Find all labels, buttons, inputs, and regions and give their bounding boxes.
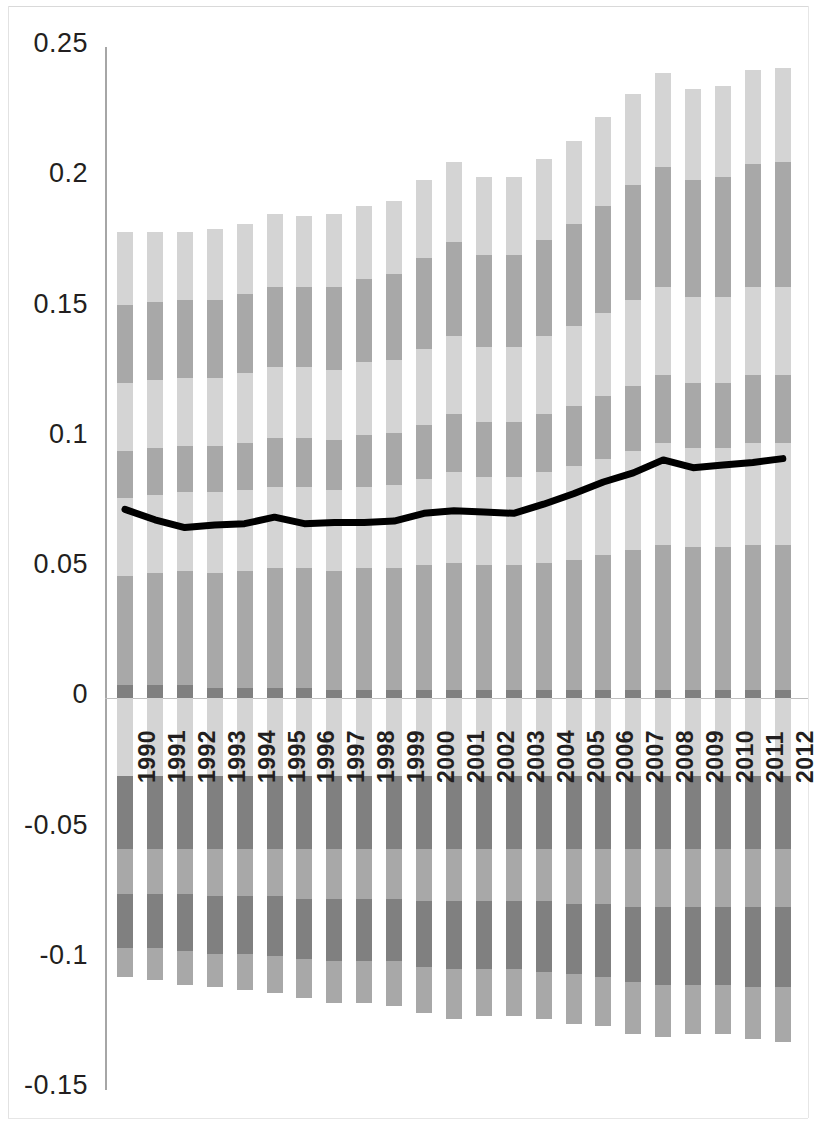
bar-segment-pos-seg-3 [237, 490, 253, 571]
bar-segment-neg-seg-5 [177, 951, 193, 985]
bar-segment-neg-seg-4 [745, 907, 761, 988]
x-axis-label-2009: 2009 [702, 730, 729, 783]
bar-2008[interactable] [655, 40, 671, 1096]
bar-segment-neg-seg-5 [207, 954, 223, 988]
bar-2007[interactable] [625, 40, 641, 1096]
x-axis-label-2003: 2003 [523, 730, 550, 783]
bar-1990[interactable] [117, 40, 133, 1096]
bar-segment-neg-seg-3 [416, 849, 432, 901]
bar-segment-neg-seg-3 [745, 849, 761, 906]
bar-segment-pos-seg-6 [685, 180, 701, 297]
bar-segment-pos-seg-5 [237, 373, 253, 443]
bar-segment-neg-seg-3 [536, 849, 552, 901]
bar-2005[interactable] [566, 40, 582, 1096]
bar-segment-neg-seg-3 [117, 849, 133, 893]
bar-1993[interactable] [207, 40, 223, 1096]
bar-segment-pos-seg-1 [506, 690, 522, 698]
bar-segment-pos-seg-6 [296, 287, 312, 368]
bar-segment-neg-seg-2 [655, 776, 671, 849]
bar-segment-pos-seg-7 [117, 232, 133, 305]
bar-segment-pos-seg-6 [416, 258, 432, 349]
bar-segment-neg-seg-4 [775, 907, 791, 988]
bar-segment-pos-seg-5 [326, 370, 342, 440]
bar-2010[interactable] [715, 40, 731, 1096]
bar-segment-pos-seg-6 [207, 300, 223, 378]
bar-segment-neg-seg-3 [296, 849, 312, 898]
bar-2004[interactable] [536, 40, 552, 1096]
bar-segment-pos-seg-5 [356, 362, 372, 435]
bar-segment-pos-seg-2 [446, 563, 462, 691]
bar-segment-pos-seg-3 [595, 459, 611, 555]
bar-segment-neg-seg-5 [745, 987, 761, 1039]
bar-segment-neg-seg-2 [386, 776, 402, 849]
bar-segment-pos-seg-4 [775, 375, 791, 443]
bar-segment-pos-seg-4 [655, 375, 671, 443]
bar-segment-neg-seg-3 [446, 849, 462, 901]
bar-segment-neg-seg-3 [326, 849, 342, 898]
bar-segment-pos-seg-2 [117, 576, 133, 685]
bar-segment-neg-seg-3 [775, 849, 791, 906]
bar-segment-pos-seg-3 [566, 466, 582, 560]
bar-segment-neg-seg-3 [356, 849, 372, 898]
bar-2006[interactable] [595, 40, 611, 1096]
bar-segment-pos-seg-1 [476, 690, 492, 698]
x-axis-label-2000: 2000 [433, 730, 460, 783]
x-axis-label-2011: 2011 [762, 731, 789, 783]
bar-segment-neg-seg-4 [506, 901, 522, 969]
bar-2000[interactable] [416, 40, 432, 1096]
bar-segment-pos-seg-2 [296, 568, 312, 688]
bar-segment-pos-seg-3 [625, 451, 641, 550]
bar-segment-pos-seg-2 [267, 568, 283, 688]
bar-segment-pos-seg-4 [745, 375, 761, 443]
x-axis-label-1995: 1995 [284, 730, 311, 783]
bar-segment-pos-seg-3 [775, 443, 791, 545]
bar-segment-neg-seg-2 [506, 776, 522, 849]
bar-segment-pos-seg-1 [267, 688, 283, 698]
bar-segment-pos-seg-7 [237, 224, 253, 294]
bar-1992[interactable] [177, 40, 193, 1096]
y-axis-tick-neg0p1: -0.1 [0, 940, 88, 971]
bar-segment-pos-seg-1 [775, 690, 791, 698]
y-axis-tick-neg0p15: -0.15 [0, 1070, 88, 1101]
bar-segment-pos-seg-7 [745, 70, 761, 164]
bar-2011[interactable] [745, 40, 761, 1096]
bar-1996[interactable] [296, 40, 312, 1096]
bar-segment-neg-seg-2 [117, 776, 133, 849]
bar-segment-pos-seg-5 [296, 367, 312, 437]
bar-segment-pos-seg-6 [446, 242, 462, 336]
bar-segment-pos-seg-4 [685, 383, 701, 448]
bar-2002[interactable] [476, 40, 492, 1096]
bar-segment-neg-seg-2 [476, 776, 492, 849]
bar-segment-pos-seg-2 [476, 565, 492, 690]
bar-2009[interactable] [685, 40, 701, 1096]
bar-1998[interactable] [356, 40, 372, 1096]
bar-1997[interactable] [326, 40, 342, 1096]
x-axis-label-2005: 2005 [583, 730, 610, 783]
bar-1994[interactable] [237, 40, 253, 1096]
bar-segment-neg-seg-5 [476, 969, 492, 1016]
bar-segment-pos-seg-5 [147, 380, 163, 448]
bar-segment-pos-seg-7 [446, 162, 462, 243]
bar-segment-pos-seg-3 [356, 487, 372, 568]
bar-2003[interactable] [506, 40, 522, 1096]
bar-segment-neg-seg-4 [416, 901, 432, 966]
bar-segment-pos-seg-3 [446, 472, 462, 563]
bar-segment-neg-seg-2 [745, 776, 761, 849]
bar-1995[interactable] [267, 40, 283, 1096]
bar-segment-pos-seg-3 [326, 490, 342, 571]
bar-segment-pos-seg-2 [595, 555, 611, 690]
bar-segment-pos-seg-1 [745, 690, 761, 698]
chart-frame-top-border [8, 6, 808, 7]
bar-segment-pos-seg-2 [416, 565, 432, 690]
bar-segment-neg-seg-4 [356, 899, 372, 962]
x-axis-label-2004: 2004 [553, 730, 580, 783]
bar-1999[interactable] [386, 40, 402, 1096]
bar-segment-neg-seg-3 [625, 849, 641, 906]
bar-1991[interactable] [147, 40, 163, 1096]
x-axis-label-2010: 2010 [732, 730, 759, 783]
bar-segment-neg-seg-5 [147, 948, 163, 979]
bar-2012[interactable] [775, 40, 791, 1096]
bar-2001[interactable] [446, 40, 462, 1096]
bar-segment-pos-seg-6 [237, 294, 253, 372]
x-axis-label-2007: 2007 [642, 730, 669, 783]
